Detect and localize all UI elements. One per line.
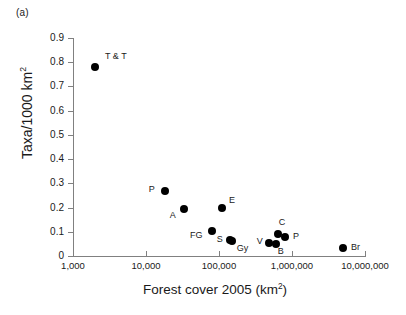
x-axis-tick-label: 1,000,000 <box>252 261 332 271</box>
x-axis-tick-label: 100,000 <box>179 261 259 271</box>
data-point <box>281 233 289 241</box>
x-axis-title: Forest cover 2005 (km2) <box>55 282 375 297</box>
data-point-label: S <box>217 235 223 244</box>
data-point-label: Br <box>351 243 360 252</box>
data-point <box>208 227 216 235</box>
scatter-plot-area <box>73 38 365 256</box>
y-axis-tick-label: 0.1 <box>24 227 64 237</box>
data-point-label: E <box>229 196 235 205</box>
y-axis-title: Taxa/1000 km2 <box>19 18 35 208</box>
data-point <box>91 63 99 71</box>
data-point <box>339 244 347 252</box>
data-point <box>180 205 188 213</box>
data-point-label: A <box>170 211 176 220</box>
data-point-label: FG <box>190 231 203 240</box>
data-point-label: B <box>278 247 284 256</box>
data-point-label: P <box>149 185 155 194</box>
x-axis-tick-label: 10,000,000 <box>325 261 405 271</box>
x-axis-tick <box>365 251 366 257</box>
data-point-label: P <box>293 232 299 241</box>
x-axis-tick-label: 1,000 <box>33 261 113 271</box>
x-axis-tick-label: 10,000 <box>106 261 186 271</box>
data-point <box>161 187 169 195</box>
data-point <box>218 204 226 212</box>
data-point-label: C <box>279 218 286 227</box>
y-axis-tick-label: 0 <box>24 251 64 261</box>
data-point-label: V <box>257 237 263 246</box>
panel-label: (a) <box>16 7 29 18</box>
data-point-label: T & T <box>105 52 127 61</box>
data-point-label: Gy <box>237 244 249 253</box>
